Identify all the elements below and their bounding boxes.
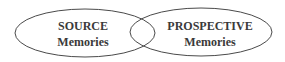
source-label-line2: Memories bbox=[57, 35, 109, 49]
prospective-label-line2: Memories bbox=[184, 35, 236, 49]
prospective-label-line1: PROSPECTIVE bbox=[167, 19, 252, 33]
source-label-line1: SOURCE bbox=[58, 19, 108, 33]
venn-diagram: SOURCE Memories PROSPECTIVE Memories bbox=[0, 0, 285, 62]
source-ellipse bbox=[15, 9, 155, 57]
